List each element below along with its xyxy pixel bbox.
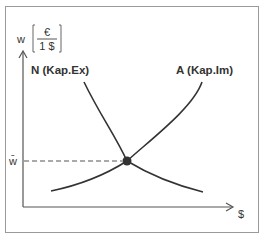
unit-denominator: 1 $ bbox=[39, 40, 54, 52]
unit-numerator: € bbox=[44, 26, 50, 38]
curve-a bbox=[51, 82, 202, 191]
x-axis-label: $ bbox=[238, 208, 244, 220]
y-axis-label: w bbox=[16, 33, 25, 45]
unit-bracket-right bbox=[59, 25, 61, 52]
exchange-rate-diagram: w € 1 $ $ N (Kap.Ex) A (Kap.Im) w̄ bbox=[0, 0, 266, 243]
unit-bracket-left bbox=[33, 25, 35, 52]
curve-label-a: A (Kap.Im) bbox=[176, 64, 233, 76]
equilibrium-point bbox=[123, 157, 132, 166]
equilibrium-label: w̄ bbox=[8, 155, 17, 167]
curve-label-n: N (Kap.Ex) bbox=[31, 64, 89, 76]
